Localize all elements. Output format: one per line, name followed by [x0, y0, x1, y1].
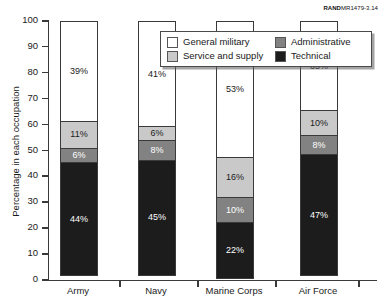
source-identifier-prefix: RAND — [323, 5, 341, 11]
bar-segment-label: 11% — [70, 129, 87, 140]
legend-label: Technical — [291, 50, 331, 62]
bar-segment[interactable]: 10% — [216, 197, 254, 223]
bar-segment-label: 8% — [312, 140, 325, 151]
y-tick-mark — [42, 175, 49, 177]
y-tick-label: 50 — [27, 143, 38, 156]
bar-segment-label: 41% — [148, 69, 166, 80]
bar-segment[interactable]: 6% — [138, 126, 176, 142]
bar-segment-label: 10% — [226, 205, 244, 216]
bar-segment-label: 6% — [72, 150, 85, 161]
chart-legend: General militaryAdministrativeService an… — [160, 31, 372, 67]
bar-segment-label: 53% — [226, 84, 244, 95]
y-tick-label: 60 — [27, 117, 38, 130]
y-tick-10: 10 — [19, 253, 49, 254]
legend-swatch-icon — [167, 37, 178, 48]
y-tick-100: 100 — [19, 20, 49, 21]
legend-entry[interactable]: Service and supply — [167, 50, 275, 62]
source-identifier: RANDMR1479-3.14 — [323, 5, 378, 11]
legend-label: General military — [183, 36, 250, 48]
bar-segment[interactable]: 16% — [216, 157, 254, 198]
y-tick-mark — [42, 20, 49, 22]
legend-entry[interactable]: Administrative — [275, 36, 379, 48]
bar-segment-label: 22% — [226, 245, 244, 256]
y-tick-40: 40 — [19, 175, 49, 176]
bar-segment[interactable]: 44% — [60, 162, 98, 276]
legend-entry[interactable]: Technical — [275, 50, 379, 62]
y-tick-mark — [42, 124, 49, 126]
bar-segment[interactable]: 8% — [300, 135, 338, 156]
y-tick-label: 40 — [27, 168, 38, 181]
legend-swatch-icon — [275, 37, 286, 48]
y-tick-60: 60 — [19, 124, 49, 125]
y-tick-30: 30 — [19, 201, 49, 202]
y-tick-label: 90 — [27, 39, 38, 52]
bar-segment[interactable]: 22% — [216, 222, 254, 279]
y-axis-title: Percentage in each occupation — [9, 22, 23, 281]
bar-segment-label: 47% — [310, 210, 328, 221]
bar-segment[interactable]: 11% — [60, 121, 98, 149]
bar-segment[interactable]: 39% — [60, 21, 98, 122]
y-tick-mark — [42, 279, 49, 281]
y-tick-mark — [42, 46, 49, 48]
y-tick-0: 0 — [19, 279, 49, 280]
source-identifier-suffix: MR1479-3.14 — [341, 5, 378, 11]
y-tick-label: 0 — [33, 272, 38, 285]
legend-label: Service and supply — [183, 50, 263, 62]
bar-segment-label: 10% — [310, 118, 328, 129]
y-tick-mark — [42, 98, 49, 100]
bar-segment[interactable]: 6% — [60, 148, 98, 164]
bar-segment[interactable]: 10% — [300, 110, 338, 136]
legend-swatch-icon — [167, 51, 178, 62]
bar-segment-label: 6% — [150, 128, 163, 139]
y-tick-80: 80 — [19, 72, 49, 73]
y-tick-mark — [42, 201, 49, 203]
legend-entry[interactable]: General military — [167, 36, 275, 48]
y-tick-50: 50 — [19, 150, 49, 151]
y-tick-label: 20 — [27, 220, 38, 233]
bar-segment-label: 44% — [70, 214, 88, 225]
bar-segment-label: 8% — [150, 145, 163, 156]
legend-swatch-icon — [275, 51, 286, 62]
y-tick-label: 80 — [27, 65, 38, 78]
y-tick-mark — [42, 72, 49, 74]
stacked-bar-chart-figure: RANDMR1479-3.14 Percentage in each occup… — [0, 0, 390, 308]
y-tick-mark — [42, 253, 49, 255]
y-tick-label: 70 — [27, 91, 38, 104]
bar-segment-label: 45% — [148, 212, 166, 223]
legend-label: Administrative — [291, 36, 351, 48]
y-tick-20: 20 — [19, 227, 49, 228]
bar-segment[interactable]: 8% — [138, 140, 176, 161]
y-tick-70: 70 — [19, 98, 49, 99]
y-tick-mark — [42, 150, 49, 152]
bar-segment[interactable]: 45% — [138, 160, 176, 277]
y-tick-label: 10 — [27, 246, 38, 259]
y-tick-label: 30 — [27, 194, 38, 207]
y-tick-mark — [42, 227, 49, 229]
y-tick-90: 90 — [19, 46, 49, 47]
x-axis-label-air-force: Air Force — [268, 285, 368, 297]
y-tick-label: 100 — [22, 13, 38, 26]
bar-segment-label: 39% — [70, 66, 88, 77]
bar-segment-label: 16% — [226, 172, 244, 183]
stacked-bar[interactable]: 39%11%6%44% — [60, 21, 98, 280]
bar-segment[interactable]: 47% — [300, 154, 338, 276]
